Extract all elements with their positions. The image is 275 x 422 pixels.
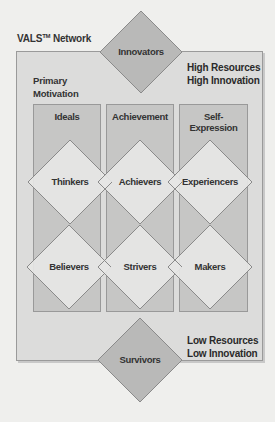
node-label-strivers: Strivers <box>100 261 180 272</box>
node-label-thinkers: Thinkers <box>30 176 110 187</box>
node-label-experiencers: Experiencers <box>170 176 250 187</box>
node-label-survivors: Survivors <box>100 354 180 365</box>
low-resources-text: Low Resources <box>187 334 258 347</box>
node-label-achievers: Achievers <box>100 176 180 187</box>
node-label-believers: Believers <box>29 261 109 272</box>
low-innovation-text: Low Innovation <box>187 347 258 360</box>
node-label-innovators: Innovators <box>101 46 181 57</box>
low-resources-label: Low Resources Low Innovation <box>187 334 258 360</box>
node-label-makers: Makers <box>170 261 250 272</box>
